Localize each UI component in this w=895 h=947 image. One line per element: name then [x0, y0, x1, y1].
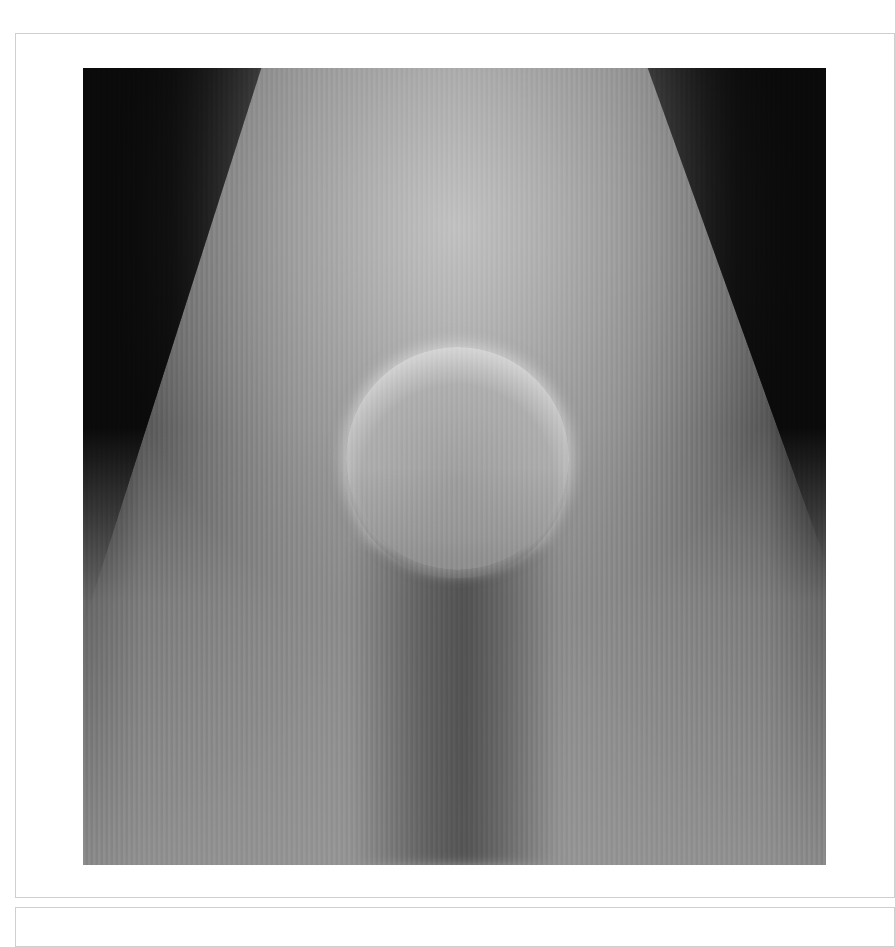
vertical-streaks: [83, 68, 826, 865]
next-card: [15, 907, 895, 947]
photo: [83, 68, 826, 865]
